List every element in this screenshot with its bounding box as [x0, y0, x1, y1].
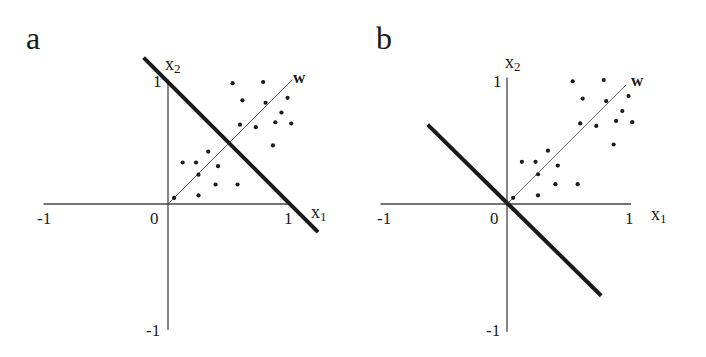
data-point [576, 182, 580, 186]
data-point [271, 143, 275, 147]
data-point [194, 160, 198, 164]
data-point [536, 172, 540, 176]
data-point [206, 149, 210, 153]
tick-x-pos-1: 1 [625, 210, 634, 227]
data-point [612, 142, 616, 146]
panel-letter-b: b [376, 22, 392, 54]
tick-origin: 0 [150, 210, 159, 227]
axis-label-x2: x2 [165, 55, 181, 75]
tick-x-pos-1: 1 [284, 210, 293, 227]
decision-boundary-line [428, 125, 602, 296]
panel-a: a -1 0 1 1 -1 x1 x2 w [0, 0, 353, 357]
data-point [196, 193, 200, 197]
tick-x-neg-1: -1 [37, 210, 51, 227]
data-point [240, 98, 244, 102]
tick-y-pos-1: 1 [153, 73, 162, 90]
axis-label-x1: x1 [311, 203, 327, 223]
data-point [231, 81, 235, 85]
data-point [626, 94, 630, 98]
data-point [172, 196, 176, 200]
data-point [571, 79, 575, 83]
data-point [604, 99, 608, 103]
data-point [581, 97, 585, 101]
tick-y-neg-1: -1 [486, 322, 500, 339]
tick-x-neg-1: -1 [377, 210, 391, 227]
data-point [602, 78, 606, 82]
data-point [213, 182, 217, 186]
data-point [196, 173, 200, 177]
data-point [238, 123, 242, 127]
data-point [264, 101, 268, 105]
data-point [556, 163, 560, 167]
panel-letter-a: a [26, 22, 40, 54]
data-point [216, 164, 220, 168]
data-point [285, 96, 289, 100]
data-point [279, 110, 283, 114]
data-point [620, 109, 624, 113]
tick-origin: 0 [490, 210, 499, 227]
data-point [254, 125, 258, 129]
data-point [630, 120, 634, 124]
weight-vector-line [507, 85, 626, 204]
data-point [289, 121, 293, 125]
data-point [533, 160, 537, 164]
weight-vector-label: w [631, 72, 643, 89]
panel-b: b -1 0 1 1 -1 x1 x2 w [353, 0, 706, 357]
axis-label-x2: x2 [505, 53, 521, 73]
data-point [553, 182, 557, 186]
panel-a-plot [0, 0, 353, 357]
axis-label-x1: x1 [651, 205, 667, 225]
data-point [235, 182, 239, 186]
data-point [546, 149, 550, 153]
data-point [261, 80, 265, 84]
data-point [614, 119, 618, 123]
data-point [520, 160, 524, 164]
data-point [536, 193, 540, 197]
panel-b-plot [353, 0, 706, 357]
tick-y-pos-1: 1 [493, 73, 502, 90]
data-point [181, 160, 185, 164]
tick-y-neg-1: -1 [146, 322, 160, 339]
data-point [594, 124, 598, 128]
data-point [511, 196, 515, 200]
data-point [578, 121, 582, 125]
data-point [273, 120, 277, 124]
weight-vector-label: w [293, 69, 305, 86]
